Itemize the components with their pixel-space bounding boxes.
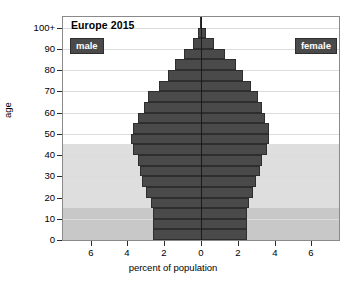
y-tick-label: 10 — [44, 214, 55, 223]
bar-male — [153, 229, 201, 240]
x-tick — [164, 241, 165, 246]
x-tick — [311, 241, 312, 246]
x-tick — [238, 241, 239, 246]
bar-female — [201, 176, 256, 187]
bar-male — [153, 219, 201, 230]
bar-female — [201, 155, 262, 166]
legend-female: female — [295, 38, 337, 54]
bar-female — [201, 166, 260, 177]
x-axis-title: percent of population — [0, 262, 346, 273]
y-axis-ticks: 0102030405060708090100+ — [0, 16, 62, 241]
bar-female — [201, 134, 269, 145]
bar-female — [201, 229, 247, 240]
population-pyramid-chart: age 0102030405060708090100+ Europe 2015 … — [0, 0, 346, 281]
bar-female — [201, 81, 251, 92]
bar-male — [175, 59, 201, 70]
bar-female — [201, 59, 236, 70]
bar-female — [201, 91, 258, 102]
y-tick-label: 20 — [44, 193, 55, 202]
bar-female — [201, 219, 247, 230]
chart-title: Europe 2015 — [71, 19, 135, 31]
x-tick-label: 6 — [71, 248, 111, 257]
x-tick-label: 0 — [181, 248, 221, 257]
bar-male — [138, 155, 201, 166]
bar-female — [201, 113, 265, 124]
bar-female — [201, 102, 262, 113]
y-tick-label: 70 — [44, 86, 55, 95]
bar-male — [153, 208, 201, 219]
y-tick-label: 90 — [44, 44, 55, 53]
bar-female — [201, 38, 214, 49]
bar-male — [151, 198, 201, 209]
x-tick — [275, 241, 276, 246]
bar-male — [144, 102, 201, 113]
x-tick — [127, 241, 128, 246]
y-tick-label: 30 — [44, 171, 55, 180]
bar-female — [201, 198, 249, 209]
bar-male — [138, 113, 201, 124]
bar-female — [201, 70, 243, 81]
bar-male — [146, 187, 201, 198]
x-tick-label: 2 — [144, 248, 184, 257]
y-tick-label: 50 — [44, 129, 55, 138]
bar-female — [201, 208, 247, 219]
legend-male: male — [70, 38, 104, 54]
y-tick-label: 80 — [44, 65, 55, 74]
x-tick — [201, 241, 202, 246]
bar-male — [142, 176, 201, 187]
bar-male — [193, 38, 201, 49]
x-tick — [91, 241, 92, 246]
y-tick-label: 40 — [44, 150, 55, 159]
bar-female — [201, 187, 253, 198]
bar-male — [140, 166, 201, 177]
bar-male — [133, 123, 201, 134]
bar-male — [133, 144, 201, 155]
bar-female — [201, 123, 269, 134]
x-tick-label: 4 — [107, 248, 147, 257]
zero-axis-line — [201, 17, 202, 240]
y-tick-label: 60 — [44, 108, 55, 117]
y-tick-label: 100+ — [34, 23, 55, 32]
x-tick-label: 6 — [291, 248, 331, 257]
bar-male — [184, 49, 201, 60]
y-tick-label: 0 — [50, 235, 55, 244]
bar-male — [168, 70, 201, 81]
x-tick-label: 4 — [255, 248, 295, 257]
bar-male — [148, 91, 201, 102]
x-tick-label: 2 — [218, 248, 258, 257]
bar-male — [131, 134, 201, 145]
bar-female — [201, 144, 267, 155]
bar-female — [201, 49, 225, 60]
bar-male — [159, 81, 201, 92]
